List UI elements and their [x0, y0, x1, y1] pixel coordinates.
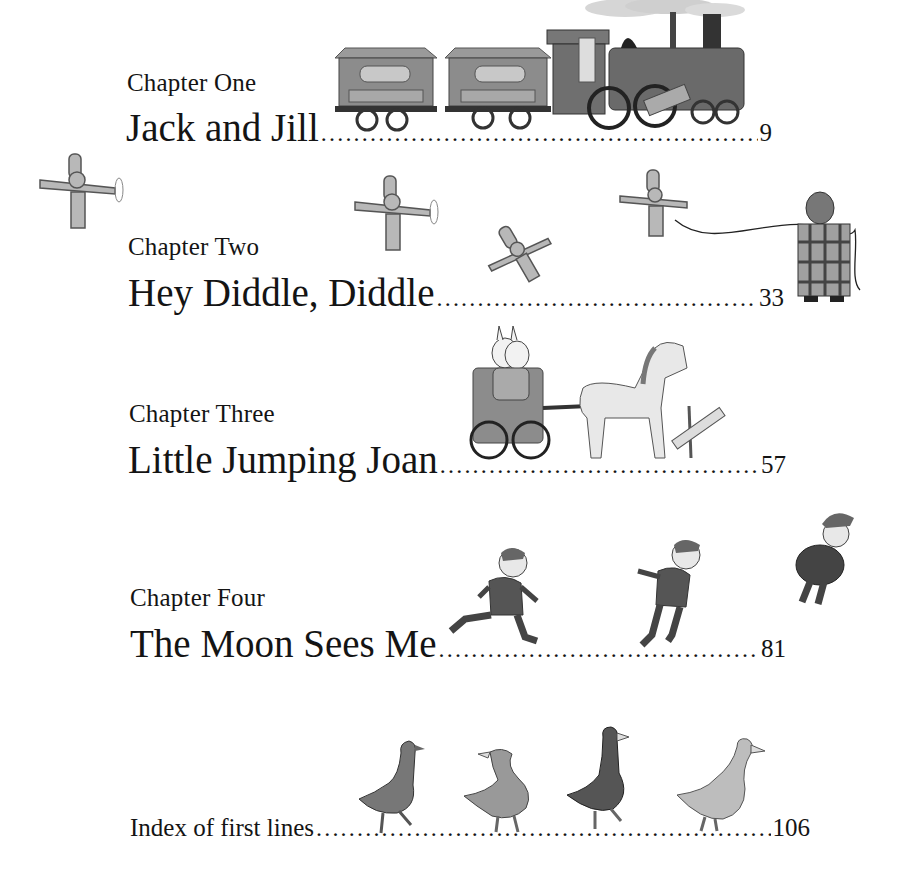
chapter-title: Jack and Jill: [126, 108, 319, 147]
dot-leader: ........................................…: [316, 815, 771, 842]
chapter-label: Chapter Two: [128, 234, 259, 259]
chapter-title: Hey Diddle, Diddle: [128, 273, 435, 312]
chapter-label: Chapter Three: [129, 401, 275, 426]
toc-entry-index-of-first-lines[interactable]: Index of first lines ...................…: [130, 815, 810, 842]
chapter-title: Little Jumping Joan: [128, 440, 438, 479]
page-number: 33: [759, 285, 784, 310]
toc-entry-jack-and-jill[interactable]: Jack and Jill ..........................…: [126, 108, 772, 147]
toy-airplane-icon: [35, 150, 125, 230]
dot-leader: ........................................…: [439, 636, 759, 663]
toc-entry-little-jumping-joan[interactable]: Little Jumping Joan ....................…: [128, 440, 786, 479]
dot-leader: ........................................…: [437, 285, 757, 312]
chapter-label: Chapter Four: [130, 585, 265, 610]
toc-entry-hey-diddle-diddle[interactable]: Hey Diddle, Diddle .....................…: [128, 273, 784, 312]
page-number: 106: [773, 815, 811, 840]
page-number: 81: [761, 636, 786, 661]
page-number: 9: [760, 120, 773, 145]
index-title: Index of first lines: [130, 815, 314, 840]
toy-airplane-icon: [350, 172, 440, 252]
chapter-title: The Moon Sees Me: [130, 624, 437, 663]
dot-leader: ........................................…: [321, 120, 758, 147]
toc-entry-the-moon-sees-me[interactable]: The Moon Sees Me .......................…: [130, 624, 786, 663]
page-number: 57: [761, 452, 786, 477]
dot-leader: ........................................…: [440, 452, 759, 479]
chapter-label: Chapter One: [127, 70, 256, 95]
jumping-boy-icon: [790, 510, 865, 610]
